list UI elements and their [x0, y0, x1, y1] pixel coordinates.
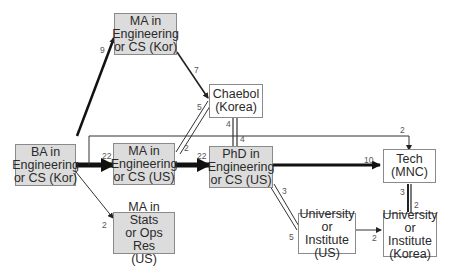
edge-ma-kor-to-chaebol: [177, 52, 208, 98]
edge-label-3a: 3: [282, 187, 287, 196]
node-university-us: University or Institute (US): [298, 213, 356, 254]
edge-label-3b: 3: [400, 188, 405, 197]
node-ba-engineering-kor: BA in Engineering or CS (Kor): [15, 144, 76, 186]
node-chaebol-korea: Chaebol (Korea): [209, 84, 263, 118]
edge-label-22b: 22: [197, 152, 206, 161]
edge-label-4b: 4: [240, 135, 245, 144]
node-tech-mnc: Tech (MNC): [383, 149, 436, 183]
edge-label-10: 10: [364, 156, 373, 165]
edge-ma-us-to-chaebol: [176, 101, 208, 152]
edge-label-2a: 2: [184, 144, 189, 153]
edge-ba-to-ma-stats: [76, 172, 113, 218]
edge-label-2e: 2: [414, 201, 419, 210]
edge-label-2d: 2: [372, 234, 377, 243]
edge-label-2b: 2: [102, 221, 107, 230]
edge-ba-to-ma-kor: [77, 38, 114, 136]
node-phd-engineering-us: PhD in Engineering or CS (US): [209, 146, 273, 188]
edge-label-5a: 5: [197, 103, 202, 112]
node-ma-stats-ops-res: MA in Stats or Ops Res (US): [113, 212, 175, 254]
edge-univ-us-to-phd: [274, 184, 300, 228]
node-university-korea: University or Institute (Korea): [383, 213, 437, 257]
edge-label-2c: 2: [400, 126, 405, 135]
edge-label-4a: 4: [226, 120, 231, 129]
edge-label-9: 9: [100, 46, 105, 55]
edge-label-22a: 22: [102, 152, 111, 161]
edge-label-7: 7: [194, 66, 199, 75]
edge-label-5b: 5: [289, 233, 294, 242]
node-ma-engineering-kor: MA in Engineering or CS (Kor): [114, 13, 177, 55]
node-ma-engineering-us: MA in Engineering or CS (US): [113, 143, 175, 185]
